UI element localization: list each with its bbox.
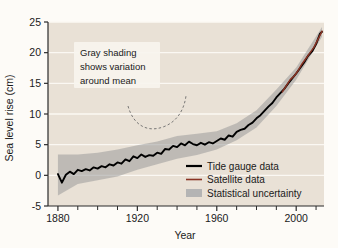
y-axis-title: Sea level rise (cm): [3, 75, 15, 162]
sea-level-rise-chart: -50510152025 1880192019602000 Sea level …: [0, 0, 338, 248]
x-tick-label: 1880: [46, 212, 70, 224]
x-tick-label: 2000: [285, 212, 309, 224]
x-tick-label: 1960: [205, 212, 229, 224]
x-axis-title: Year: [174, 229, 196, 241]
y-tick-label: 25: [29, 16, 41, 28]
legend-marker-swatch: [186, 189, 202, 197]
annotation-line-2: shows variation: [80, 61, 145, 72]
annotation-line-1: Gray shading: [80, 47, 137, 58]
y-tick-label: 0: [35, 169, 41, 181]
legend-item-label: Satellite data: [207, 174, 265, 185]
y-tick-label: -5: [32, 200, 41, 212]
x-tick-label: 1920: [126, 212, 150, 224]
y-tick-label: 20: [29, 46, 41, 58]
y-tick-label: 10: [29, 108, 41, 120]
legend-item-label: Tide gauge data: [207, 161, 279, 172]
y-tick-label: 15: [29, 77, 41, 89]
y-tick-label: 5: [35, 138, 41, 150]
annotation-line-3: around mean: [80, 75, 136, 86]
chart-canvas: -50510152025 1880192019602000 Sea level …: [0, 0, 338, 248]
legend-item-label: Statistical uncertainty: [207, 188, 302, 199]
